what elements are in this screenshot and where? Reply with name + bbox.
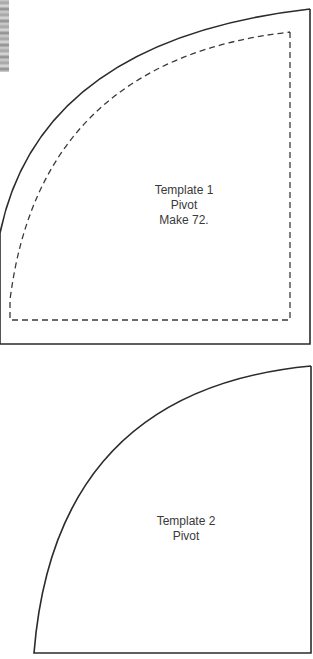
template-1-title: Template 1: [124, 183, 244, 198]
template-1-seam-line: [10, 32, 290, 320]
template-1-label: Template 1 Pivot Make 72.: [124, 183, 244, 228]
template-sheet: [0, 0, 313, 659]
template-2-label: Template 2 Pivot: [126, 514, 246, 544]
template-2-title: Template 2: [126, 514, 246, 529]
template-2-pivot: Pivot: [126, 529, 246, 544]
template-1-pivot: Pivot: [124, 198, 244, 213]
template-2-outline: [34, 366, 311, 653]
template-1-outline: [0, 9, 310, 344]
template-1-quantity: Make 72.: [124, 213, 244, 228]
